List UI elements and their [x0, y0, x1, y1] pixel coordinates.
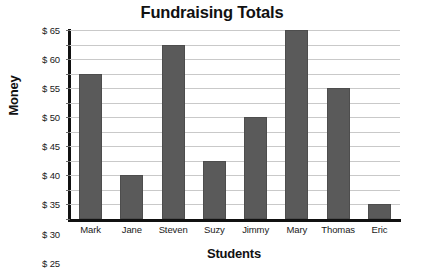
- bar: [244, 117, 267, 219]
- y-axis-tick: 0: [66, 219, 70, 220]
- x-axis-tick-label: Jane: [111, 224, 152, 235]
- x-axis-tick-label: Thomas: [318, 224, 359, 235]
- bar: [368, 204, 391, 219]
- x-axis-tick-label: Mark: [70, 224, 111, 235]
- bar: [327, 88, 350, 219]
- y-axis-tick-label: $ 45: [42, 141, 60, 152]
- y-axis-tick-label: $ 55: [42, 83, 60, 94]
- x-axis-tick-label: Eric: [359, 224, 400, 235]
- y-axis-tick-label: $ 35: [42, 199, 60, 210]
- x-axis-line: [68, 219, 401, 222]
- y-axis-tick-label: $ 40: [42, 170, 60, 181]
- x-axis-tick-label: Mary: [276, 224, 317, 235]
- bars-group: [70, 30, 400, 219]
- y-axis-title: Money: [6, 56, 21, 136]
- y-axis-tick-label: $ 65: [42, 25, 60, 36]
- chart-title: Fundraising Totals: [0, 3, 424, 22]
- x-axis-tick-label: Steven: [153, 224, 194, 235]
- plot-area: 0$ 5$ 10$ 15$ 20$ 25$ 30$ 35$ 40$ 45$ 50…: [70, 30, 400, 219]
- x-axis-title: Students: [68, 246, 400, 261]
- y-axis-tick-label: $ 50: [42, 112, 60, 123]
- y-axis-tick-label: $ 30: [42, 228, 60, 239]
- bar: [162, 45, 185, 219]
- bar: [79, 74, 102, 219]
- y-axis-tick-label: $ 60: [42, 54, 60, 65]
- bar: [285, 30, 308, 219]
- x-axis-tick-label: Suzy: [194, 224, 235, 235]
- fundraising-bar-chart: Fundraising Totals Money 0$ 5$ 10$ 15$ 2…: [0, 0, 424, 279]
- bar: [203, 161, 226, 219]
- x-axis-tick-labels: MarkJaneStevenSuzyJimmyMaryThomasEric: [70, 224, 400, 242]
- y-axis-tick-label: $ 25: [42, 257, 60, 268]
- x-axis-tick-label: Jimmy: [235, 224, 276, 235]
- bar: [120, 175, 143, 219]
